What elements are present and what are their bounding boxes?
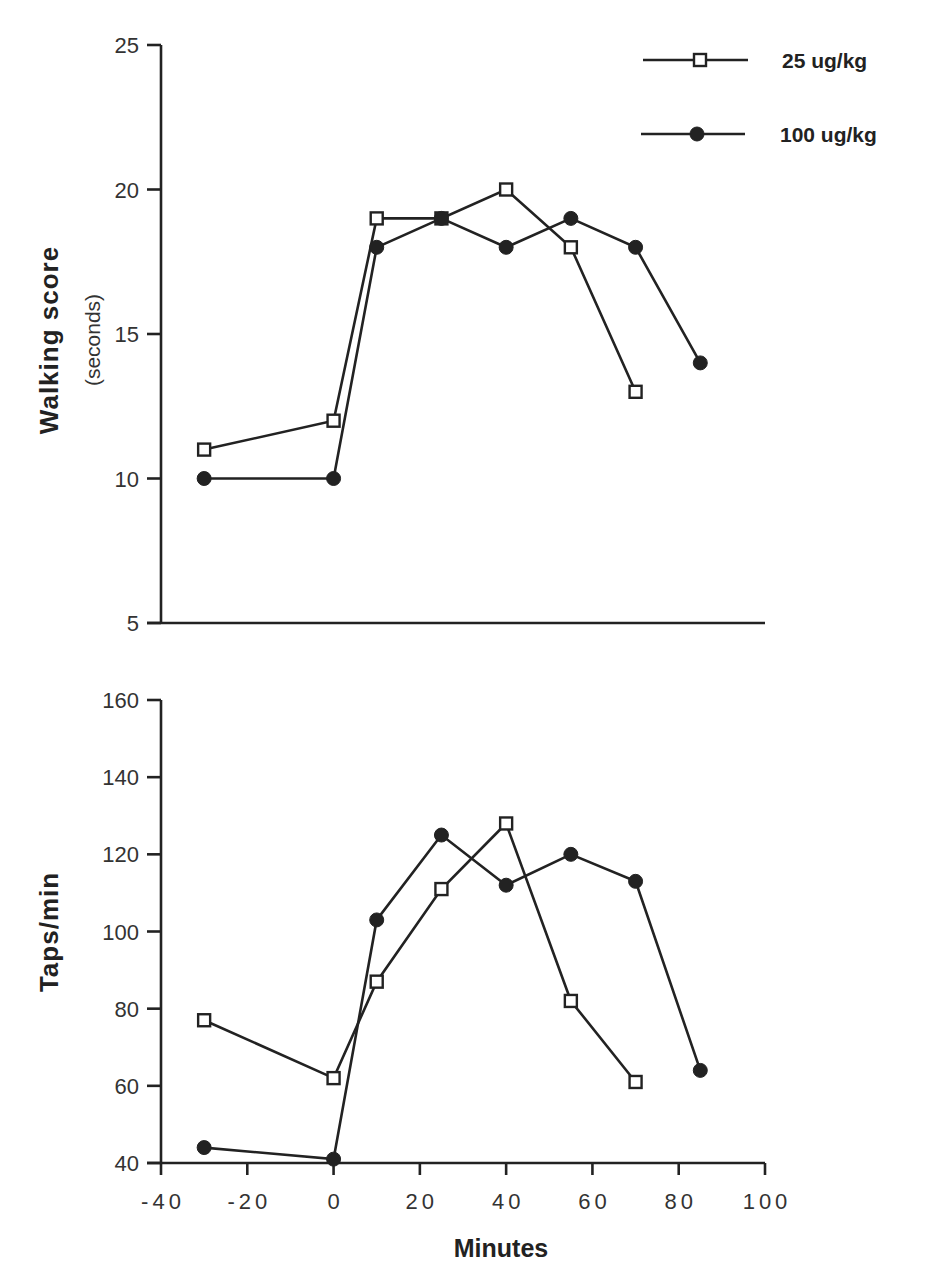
filled-circle-marker-icon	[197, 1141, 211, 1155]
filled-circle-marker-icon	[434, 828, 448, 842]
walking-score-chart: 510152025 Walking score (seconds)	[34, 33, 765, 636]
y-tick-label: 60	[115, 1074, 139, 1099]
open-square-marker-icon	[371, 212, 383, 224]
open-square-icon	[694, 54, 706, 66]
filled-circle-marker-icon	[693, 1063, 707, 1077]
figure: 510152025 Walking score (seconds) 25 ug/…	[0, 0, 946, 1274]
filled-circle-marker-icon	[693, 356, 707, 370]
filled-circle-marker-icon	[564, 847, 578, 861]
filled-circle-marker-icon	[564, 211, 578, 225]
x-axis-label: Minutes	[454, 1234, 548, 1262]
x-tick-label: 0	[327, 1189, 343, 1214]
filled-circle-marker-icon	[197, 472, 211, 486]
filled-circle-marker-icon	[499, 240, 513, 254]
y-tick-label: 80	[115, 997, 139, 1022]
open-square-marker-icon	[565, 995, 577, 1007]
legend-label: 100 ug/kg	[780, 123, 877, 146]
y-tick-label: 10	[115, 467, 139, 492]
legend-label: 25 ug/kg	[782, 49, 867, 72]
filled-circle-marker-icon	[370, 913, 384, 927]
open-square-marker-icon	[198, 444, 210, 456]
x-tick-label: 100	[743, 1189, 792, 1214]
walking-score-y-label: Walking score	[34, 246, 64, 434]
x-tick-label: 60	[578, 1189, 610, 1214]
open-square-marker-icon	[565, 241, 577, 253]
taps-per-min-chart: 406080100120140160-40-20020406080100 Tap…	[34, 688, 791, 1262]
y-tick-label: 15	[115, 322, 139, 347]
y-tick-label: 20	[115, 178, 139, 203]
x-tick-label: 40	[492, 1189, 524, 1214]
filled-circle-marker-icon	[327, 1152, 341, 1166]
filled-circle-marker-icon	[629, 874, 643, 888]
x-tick-label: -20	[227, 1189, 271, 1214]
open-square-marker-icon	[630, 386, 642, 398]
open-square-marker-icon	[435, 883, 447, 895]
y-tick-label: 140	[102, 765, 139, 790]
filled-circle-marker-icon	[370, 240, 384, 254]
open-square-marker-icon	[328, 1072, 340, 1084]
legend: 25 ug/kg 100 ug/kg	[641, 49, 877, 146]
y-tick-label: 160	[102, 688, 139, 713]
taps-per-min-plot-area: 406080100120140160-40-20020406080100	[102, 688, 791, 1214]
x-tick-label: 80	[664, 1189, 696, 1214]
filled-circle-icon	[690, 127, 704, 141]
open-square-marker-icon	[500, 184, 512, 196]
legend-item-100ugkg: 100 ug/kg	[641, 123, 877, 146]
y-tick-label: 25	[115, 33, 139, 58]
open-square-marker-icon	[198, 1014, 210, 1026]
x-tick-label: 20	[406, 1189, 438, 1214]
taps-per-min-y-label: Taps/min	[34, 872, 64, 992]
legend-item-25ugkg: 25 ug/kg	[643, 49, 867, 72]
y-tick-label: 5	[127, 611, 139, 636]
filled-circle-marker-icon	[499, 878, 513, 892]
filled-circle-marker-icon	[434, 211, 448, 225]
open-square-marker-icon	[328, 415, 340, 427]
open-square-marker-icon	[500, 817, 512, 829]
open-square-marker-icon	[630, 1076, 642, 1088]
walking-score-plot-area: 510152025	[115, 33, 765, 636]
y-tick-label: 100	[102, 920, 139, 945]
filled-circle-marker-icon	[327, 472, 341, 486]
walking-score-y-sublabel: (seconds)	[81, 294, 104, 386]
filled-circle-marker-icon	[629, 240, 643, 254]
y-tick-label: 40	[115, 1151, 139, 1176]
y-tick-label: 120	[102, 842, 139, 867]
series-line	[204, 218, 700, 478]
x-tick-label: -40	[141, 1189, 185, 1214]
series-line	[204, 835, 700, 1159]
open-square-marker-icon	[371, 976, 383, 988]
